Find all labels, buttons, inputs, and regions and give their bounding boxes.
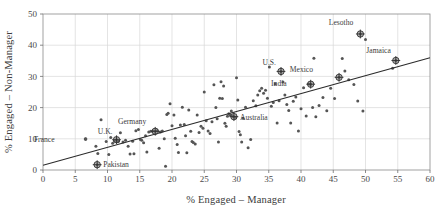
annotated-point-uk: U.K. (98, 127, 121, 144)
data-point (111, 142, 114, 145)
data-point (203, 91, 206, 94)
y-tick-label: 20 (28, 103, 38, 113)
data-point (145, 150, 148, 153)
y-tick-label: 0 (33, 165, 38, 175)
data-point (185, 151, 188, 154)
data-point (356, 100, 359, 103)
data-point (189, 130, 192, 133)
x-tick-label: 50 (361, 174, 371, 184)
data-point (223, 122, 226, 125)
data-point (94, 145, 97, 148)
data-point (305, 115, 308, 118)
annotated-point-lesotho: Lesotho (329, 18, 365, 38)
data-point (209, 132, 212, 135)
data-point (260, 87, 263, 90)
scatter-plot-svg: 051015202530354045505560 01020304050 Fra… (0, 0, 441, 213)
x-tick-label: 5 (73, 174, 78, 184)
data-point (252, 99, 255, 102)
data-point (238, 130, 241, 133)
point-label: Pakistan (103, 160, 129, 169)
data-point (164, 165, 167, 168)
data-point (312, 57, 315, 60)
data-point (325, 109, 328, 112)
data-point (285, 103, 288, 106)
data-point (266, 97, 269, 100)
data-point (198, 131, 201, 134)
data-point (364, 38, 367, 41)
data-point (207, 130, 210, 133)
annotated-point-us: U.S. (262, 58, 285, 76)
data-point (100, 118, 103, 121)
data-point (314, 115, 317, 118)
data-point (220, 80, 223, 83)
data-point (127, 145, 130, 148)
scatter-chart-figure: 051015202530354045505560 01020304050 Fra… (0, 0, 441, 213)
annotated-point-mexico: Mexico (290, 65, 344, 81)
annotated-point-germany: Germany (118, 117, 160, 135)
data-point (294, 95, 297, 98)
annotated-point-india: India (271, 79, 315, 89)
data-point (236, 99, 239, 102)
x-tick-label: 40 (297, 174, 307, 184)
data-point (333, 97, 336, 100)
data-point (218, 97, 221, 100)
x-tick-label: 55 (393, 174, 403, 184)
data-point (258, 89, 261, 92)
data-point (214, 106, 217, 109)
data-point (225, 125, 228, 128)
x-tick-label: 0 (41, 174, 46, 184)
data-point (276, 121, 279, 124)
data-point (343, 70, 346, 73)
point-label: U.S. (262, 58, 276, 67)
data-point (329, 87, 332, 90)
point-label: Australia (240, 113, 268, 122)
data-point (174, 137, 177, 140)
data-point (84, 137, 88, 141)
data-point (194, 143, 197, 146)
data-point (196, 114, 199, 117)
data-point (289, 121, 292, 124)
annotated-points-layer: FrancePakistanU.K.GermanyAustraliaU.S.In… (34, 18, 400, 169)
y-tick-labels: 01020304050 (28, 9, 38, 175)
data-point (109, 136, 112, 139)
x-tick-label: 60 (426, 174, 436, 184)
point-label: U.K. (98, 127, 113, 136)
data-point (142, 141, 145, 144)
data-point (107, 153, 110, 156)
data-point (249, 138, 252, 141)
data-point (167, 112, 170, 115)
gridlines-layer (43, 14, 430, 170)
data-point (302, 86, 305, 89)
data-point (262, 92, 265, 95)
data-point (119, 131, 122, 134)
data-point (341, 57, 344, 60)
data-point (172, 114, 175, 117)
data-point (270, 105, 273, 108)
data-point (300, 107, 303, 110)
point-label: Jamaica (366, 46, 391, 55)
data-point (129, 153, 132, 156)
data-points-layer (84, 32, 397, 167)
data-point (124, 139, 127, 142)
data-point (240, 140, 243, 143)
x-tick-label: 20 (168, 174, 178, 184)
point-label: Germany (118, 117, 146, 126)
data-point (216, 117, 219, 120)
data-point (176, 143, 179, 146)
data-point (137, 128, 140, 131)
data-point (171, 124, 174, 127)
annotated-point-australia: Australia (230, 112, 269, 121)
x-tick-label: 15 (135, 174, 145, 184)
data-point (235, 76, 238, 79)
y-tick-label: 30 (28, 72, 38, 82)
x-tick-label: 35 (264, 174, 274, 184)
data-point (230, 110, 233, 113)
data-point (311, 106, 314, 109)
data-point (163, 137, 166, 140)
x-tick-label: 30 (232, 174, 242, 184)
data-point (201, 127, 204, 130)
data-point (247, 146, 250, 149)
x-tick-label: 25 (200, 174, 210, 184)
annotated-point-france: France (34, 135, 87, 144)
data-point (297, 130, 300, 133)
